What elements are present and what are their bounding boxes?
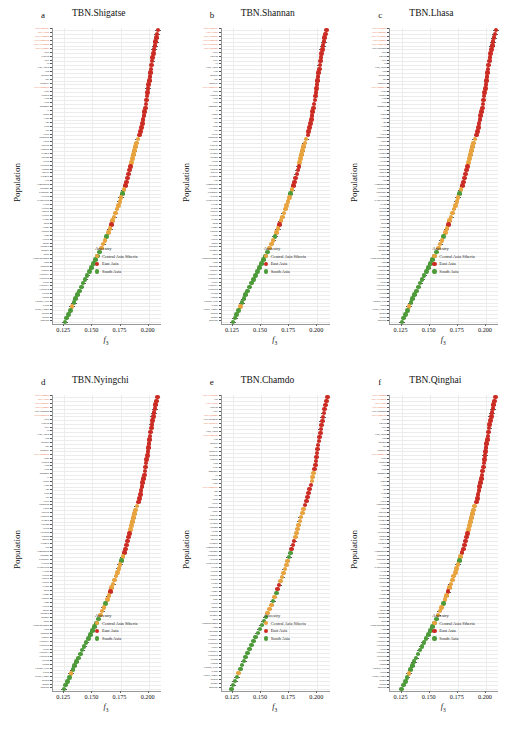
legend-item-cas[interactable]: Central Asia Siberia [264,254,306,259]
y-tick-label: Selkup [338,208,389,211]
y-axis-label: Population [181,530,191,569]
gridline-horizontal [53,413,161,414]
y-tick-label: TBN.Qinghai [170,415,221,418]
legend-item-cas[interactable]: Central Asia Siberia [432,621,474,626]
y-tick-text: Makrani [40,687,49,690]
y-tick-label: Mansi [338,243,389,246]
gridline-horizontal [53,405,161,406]
legend-swatch-icon [95,254,99,258]
y-tick-label: TBN.Lhasa [338,403,389,406]
legend-item-sa[interactable]: South Asia [264,636,306,641]
x-tick-label: 0.200 [141,693,155,700]
y-tick-text: Tajiks_Pamiri [372,675,387,678]
y-tick-text: Kurds [43,304,49,307]
y-tick-text: Kinh [44,492,49,495]
legend-item-cas[interactable]: Central Asia Siberia [264,621,306,626]
y-tick-label: Bengali [1,250,52,253]
y-tick-text: Lodh [381,261,386,264]
y-tick-text: TBN.Lhasa [37,398,49,401]
y-tick-text: Tujia [381,51,386,54]
y-tick-label: Uygur [1,586,52,589]
y-tick-label: Uchi [338,469,389,472]
legend-item-sa[interactable]: South Asia [432,269,474,274]
x-tick-label: 0.150 [84,326,98,333]
gridline-horizontal [390,650,498,651]
gridline-horizontal [390,545,498,546]
y-tick-text: Gujarati3 [39,651,49,654]
legend-item-ea[interactable]: East Asia [432,261,474,266]
legend-item-sa[interactable]: South Asia [95,269,137,274]
y-tick-label: Eskimo [170,157,221,160]
y-tick-text: Han [214,438,218,441]
y-tick-label: Korean [338,56,389,59]
gridline-horizontal [53,561,161,562]
legend-item-ea[interactable]: East Asia [264,628,306,633]
y-tick-label: Tiwari [1,649,52,652]
legend-item-cas[interactable]: Central Asia Siberia [432,254,474,259]
y-tick-label: Daors [338,481,389,484]
y-tick-text: Gujarati1 [377,640,387,643]
gridline-horizontal [222,453,330,454]
y-tick-label: Baloch [338,680,389,683]
y-tick-text: TBN.Shannan [372,47,387,50]
y-tick-label: Koryak [170,515,221,518]
y-tick-text: Bengali [210,614,218,617]
gridline-horizontal [53,158,161,159]
y-tick-text: Itelmen [379,519,387,522]
gridline-horizontal [390,46,498,47]
y-tick-label: Koinanbe [1,192,52,195]
y-tick-label: Lodh [1,262,52,265]
y-tick-text: Yi [47,109,49,112]
y-tick-text: Ami [45,121,50,124]
y-tick-text: Miao [212,586,217,589]
legend-item-cas[interactable]: Central Asia Siberia [95,621,137,626]
y-tick-text: Gujarati3 [208,650,218,653]
y-tick-text: Kyrgyzstan [206,199,218,202]
y-tick-label: Pathan [338,664,389,667]
y-tick-text: Uchi [213,466,218,469]
y-tick-label: Baloch [1,313,52,316]
y-tick-label: Brahui [1,684,52,687]
y-tick-text: Tiwari [42,281,49,284]
y-tick-label: Kalash [170,659,221,662]
gridline-horizontal [222,57,330,58]
legend-item-ea[interactable]: East Asia [95,261,137,266]
legend-item-sa[interactable]: South Asia [95,636,137,641]
gridline-horizontal [53,502,161,503]
y-tick-text: Nganasan [376,136,386,139]
y-tick-label: Kurds [170,671,221,674]
gridline-horizontal [222,505,330,506]
y-tick-label: TBN.Nyingchi [338,36,389,39]
legend-item-ea[interactable]: East Asia [95,628,137,633]
gridline-horizontal [390,291,498,292]
y-tick-label: Evenk [338,571,389,574]
legend-item-cas[interactable]: Central Asia Siberia [95,254,137,259]
legend: AncestryCentral Asia SiberiaEast AsiaSou… [264,246,306,277]
y-tick-text: Kalash [42,659,49,662]
gridline-horizontal [390,401,498,402]
y-tick-label: Uygur [338,586,389,589]
gridline-horizontal [222,521,330,522]
y-tick-text: Koinanbe [39,191,49,194]
y-tick-text: Tajiks_Pamiri [203,674,218,677]
y-tick-label: Gujarati4 [1,289,52,292]
y-tick-text: Turkmen [377,246,386,249]
legend-swatch-icon [264,269,268,273]
legend-item-ea[interactable]: East Asia [264,261,306,266]
y-tick-label: Bengali [338,250,389,253]
y-tick-label: Kinh [338,126,389,129]
y-tick-text: Tuvinian [377,531,386,534]
y-tick-text: Khakas [41,597,49,600]
y-tick-text: Naxi [44,426,49,429]
y-tick-text: Cochin_Jews [204,666,218,669]
legend-item-sa[interactable]: South Asia [432,636,474,641]
gridline-horizontal [390,38,498,39]
legend-title: Ancestry [432,613,474,618]
y-tick-label: Uygur [170,583,221,586]
y-tick-text: Naxi [381,59,386,62]
y-tick-text: TBN.Qinghai [204,414,218,417]
y-tick-text: SHP.Zhongxia [371,453,386,456]
y-tick-text: Maonan [209,454,218,457]
legend-item-sa[interactable]: South Asia [264,269,306,274]
legend-item-ea[interactable]: East Asia [432,628,474,633]
